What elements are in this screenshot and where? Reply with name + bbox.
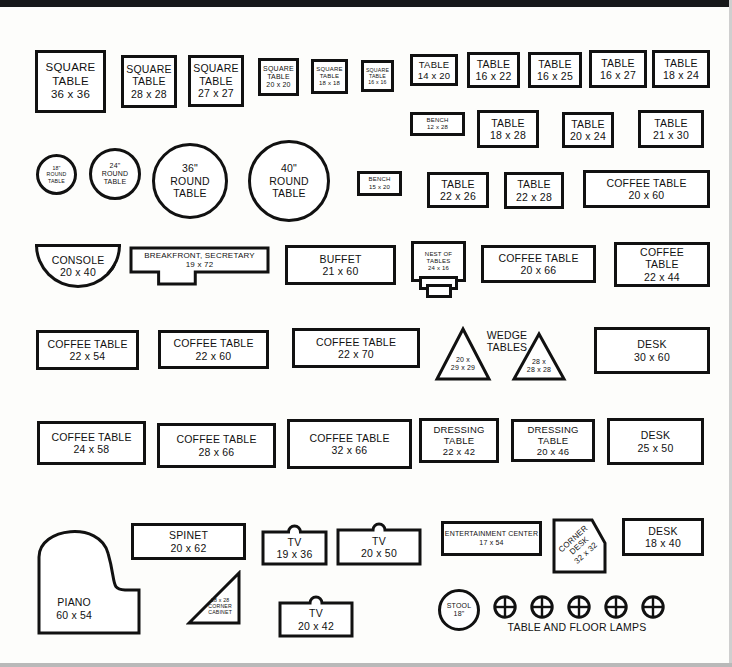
coffee-table-24x58[interactable]: COFFEE TABLE 24 x 58: [37, 421, 146, 465]
item-label: 28 x 28 CORNER CABINET: [208, 597, 232, 615]
furniture-template-sheet: SQUARE TABLE 36 x 36SQUARE TABLE 28 x 28…: [0, 0, 732, 667]
round-table-18[interactable]: 18" ROUND TABLE: [36, 154, 77, 195]
item-label: TV 20 x 42: [298, 607, 334, 632]
square-table-18x18[interactable]: SQUARE TABLE 18 x 18: [311, 59, 348, 94]
tv-19x36[interactable]: TV 19 x 36: [261, 524, 328, 566]
table-22x28[interactable]: TABLE 22 x 28: [504, 172, 564, 209]
tv-20x42[interactable]: TV 20 x 42: [278, 595, 354, 638]
item-label: BENCH 12 x 28: [426, 117, 448, 131]
item-label: COFFEE TABLE 28 x 66: [176, 433, 256, 458]
table-18x28[interactable]: TABLE 18 x 28: [477, 110, 539, 148]
lamp-5[interactable]: [641, 595, 665, 619]
item-label: TABLE 18 x 24: [663, 57, 699, 82]
table-20x24[interactable]: TABLE 20 x 24: [562, 112, 614, 148]
lamp-3[interactable]: [567, 595, 591, 619]
item-label: TABLE 21 x 30: [653, 117, 689, 142]
breakfront-secretary-19x72[interactable]: BREAKFRONT, SECRETARY 19 x 72: [129, 246, 270, 286]
item-label: TABLE 18 x 28: [490, 117, 526, 142]
entertainment-center-17x54[interactable]: ENTERTAINMENT CENTER 17 x 54: [441, 521, 542, 556]
item-label: 20 x 29 x 29: [451, 356, 475, 373]
lamp-1[interactable]: [493, 595, 517, 619]
lamp-2[interactable]: [530, 595, 554, 619]
dressing-table-22x42[interactable]: DRESSING TABLE 22 x 42: [419, 418, 499, 463]
table-16x25[interactable]: TABLE 16 x 25: [528, 52, 582, 88]
item-label: DESK 18 x 40: [645, 525, 681, 550]
item-label: SQUARE TABLE 36 x 36: [46, 61, 96, 102]
desk-25x50[interactable]: DESK 25 x 50: [607, 418, 704, 465]
bench-12x28[interactable]: BENCH 12 x 28: [410, 112, 465, 136]
item-label: PIANO 60 x 54: [56, 596, 92, 621]
square-table-28x28[interactable]: SQUARE TABLE 28 x 28: [121, 55, 177, 108]
item-label: COFFEE TABLE 20 x 66: [498, 252, 578, 277]
item-label: 40" ROUND TABLE: [269, 162, 309, 199]
spinet-20x62[interactable]: SPINET 20 x 62: [131, 523, 246, 560]
table-18x24[interactable]: TABLE 18 x 24: [652, 50, 710, 88]
lamp-icon: [493, 595, 517, 619]
desk-18x40[interactable]: DESK 18 x 40: [622, 518, 704, 556]
coffee-table-22x70[interactable]: COFFEE TABLE 22 x 70: [292, 328, 420, 368]
round-table-36[interactable]: 36" ROUND TABLE: [152, 143, 228, 219]
square-table-20x20[interactable]: SQUARE TABLE 20 x 20: [258, 58, 299, 96]
lamps-caption: TABLE AND FLOOR LAMPS: [487, 621, 667, 633]
table-16x22[interactable]: TABLE 16 x 22: [467, 52, 520, 88]
item-label: COFFEE TABLE 22 x 54: [47, 338, 127, 363]
item-label: 24" ROUND TABLE: [102, 162, 129, 187]
piano-60x54[interactable]: PIANO 60 x 54: [36, 518, 142, 636]
coffee-table-22x60[interactable]: COFFEE TABLE 22 x 60: [158, 330, 269, 369]
coffee-table-28x66[interactable]: COFFEE TABLE 28 x 66: [157, 423, 276, 468]
buffet-21x60[interactable]: BUFFET 21 x 60: [285, 245, 396, 285]
square-table-16x16[interactable]: SQUARE TABLE 16 x 16: [361, 60, 394, 92]
item-label: COFFEE TABLE 24 x 58: [51, 431, 131, 456]
item-label: WEDGE TABLES: [487, 329, 528, 354]
coffee-table-32x66[interactable]: COFFEE TABLE 32 x 66: [287, 419, 412, 469]
item-label: TABLE 22 x 26: [440, 178, 476, 203]
item-label: DRESSING TABLE 22 x 42: [433, 424, 484, 458]
item-label: TABLE 22 x 28: [516, 178, 552, 203]
coffee-table-22x44[interactable]: COFFEE TABLE 22 x 44: [614, 242, 710, 287]
table-16x27[interactable]: TABLE 16 x 27: [589, 50, 647, 88]
item-label: COFFEE TABLE 22 x 70: [316, 336, 396, 361]
coffee-table-22x54[interactable]: COFFEE TABLE 22 x 54: [36, 330, 139, 370]
item-label: SPINET 20 x 62: [169, 529, 208, 554]
table-14x20[interactable]: TABLE 14 x 20: [410, 54, 458, 86]
round-table-24[interactable]: 24" ROUND TABLE: [89, 148, 141, 200]
top-edge-band: [0, 0, 732, 7]
bench-15x20[interactable]: BENCH 15 x 20: [357, 171, 402, 196]
item-label: SQUARE TABLE 28 x 28: [126, 63, 172, 100]
item-label: TV 19 x 36: [277, 536, 313, 561]
coffee-table-20x60[interactable]: COFFEE TABLE 20 x 60: [583, 170, 710, 208]
item-label: TABLE 16 x 27: [600, 57, 636, 82]
table-21x30[interactable]: TABLE 21 x 30: [638, 110, 704, 148]
item-label: CONSOLE 20 x 40: [52, 254, 105, 279]
item-label: 36" ROUND TABLE: [170, 162, 210, 199]
item-label: TABLE 14 x 20: [418, 59, 451, 81]
item-label: COFFEE TABLE 32 x 66: [309, 432, 389, 457]
corner-cabinet-28x28[interactable]: 28 x 28 CORNER CABINET: [186, 570, 242, 626]
item-label: TABLE AND FLOOR LAMPS: [508, 621, 647, 633]
lamp-4[interactable]: [604, 595, 628, 619]
corner-desk-32x32[interactable]: CORNER DESK 32 x 32: [551, 517, 608, 575]
wedge-tables-caption: WEDGE TABLES: [476, 329, 538, 354]
item-label: COFFEE TABLE 20 x 60: [606, 177, 686, 202]
item-label: SQUARE TABLE 20 x 20: [263, 65, 294, 90]
item-label: SQUARE TABLE 27 x 27: [193, 62, 239, 99]
round-table-40[interactable]: 40" ROUND TABLE: [248, 140, 330, 222]
console-20x40[interactable]: CONSOLE 20 x 40: [35, 244, 121, 288]
item-label: BENCH 15 x 20: [368, 176, 390, 190]
item-label: 18" ROUND TABLE: [46, 165, 66, 183]
lamp-icon: [641, 595, 665, 619]
item-label: TABLE 20 x 24: [570, 118, 606, 143]
item-label: DRESSING TABLE 20 x 46: [527, 424, 578, 458]
nest-of-tables-24x16[interactable]: NEST OF TABLES 24 x 16: [411, 241, 460, 298]
table-22x26[interactable]: TABLE 22 x 26: [427, 172, 489, 208]
square-table-27x27[interactable]: SQUARE TABLE 27 x 27: [188, 55, 244, 107]
item-label: DESK 25 x 50: [638, 429, 674, 454]
coffee-table-20x66[interactable]: COFFEE TABLE 20 x 66: [481, 245, 596, 283]
tv-20x50[interactable]: TV 20 x 50: [336, 522, 422, 566]
desk-30x60[interactable]: DESK 30 x 60: [594, 327, 710, 374]
item-label: NEST OF TABLES 24 x 16: [425, 251, 452, 272]
stool-18[interactable]: STOOL 18": [438, 589, 480, 631]
square-table-36x36[interactable]: SQUARE TABLE 36 x 36: [35, 50, 106, 113]
lamp-icon: [530, 595, 554, 619]
dressing-table-20x46[interactable]: DRESSING TABLE 20 x 46: [511, 419, 595, 462]
